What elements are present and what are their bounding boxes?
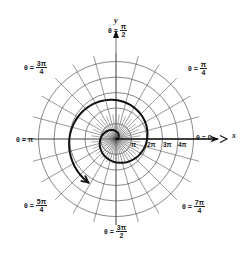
polar-grid: [0, 0, 248, 260]
angle-value: π: [28, 136, 33, 143]
radius-tick-label: 4π: [178, 141, 187, 148]
angle-label-theta-pi: θ =π: [16, 136, 33, 143]
grid-radial-line: [116, 117, 199, 139]
grid-radial-line: [33, 117, 116, 139]
radius-tick-label: 3π: [163, 141, 172, 148]
angle-fraction: 5π4: [36, 198, 47, 213]
grid-radial-line: [42, 139, 117, 182]
angle-label-prefix: θ =: [16, 136, 26, 143]
angle-fraction: 7π4: [194, 199, 205, 214]
grid-radial-line: [73, 65, 116, 140]
x-axis-end-arrow-icon: [220, 136, 227, 143]
fraction-denominator: 4: [202, 69, 206, 76]
fraction-denominator: 4: [198, 207, 202, 214]
grid-radial-line: [116, 56, 138, 139]
grid-radial-line: [116, 139, 138, 222]
angle-label-prefix: θ =: [196, 134, 206, 141]
grid-radial-line: [94, 56, 116, 139]
fraction-numerator: 3π: [36, 60, 47, 68]
fraction-numerator: π: [120, 23, 127, 31]
grid-radial-line: [73, 139, 116, 214]
angle-label-prefix: θ =: [108, 27, 118, 34]
grid-radial-line: [116, 139, 159, 214]
angle-label-theta-3pi-4: θ =3π4: [24, 60, 47, 75]
grid-radial-line: [116, 139, 177, 200]
grid-radial-line: [55, 139, 116, 200]
fraction-numerator: 3π: [116, 224, 127, 232]
x-axis-label: x: [232, 131, 236, 140]
angle-label-prefix: θ =: [24, 202, 34, 209]
fraction-numerator: π: [200, 61, 207, 69]
fraction-numerator: 7π: [194, 199, 205, 207]
radius-tick-label: 2π: [147, 141, 156, 148]
fraction-numerator: 5π: [36, 198, 47, 206]
angle-fraction: π4: [200, 61, 207, 76]
grid-radial-line: [94, 139, 116, 222]
angle-label-theta-3pi-2: θ =3π2: [104, 224, 127, 239]
angle-label-theta-pi-4: θ =π4: [188, 61, 207, 76]
radius-tick-label: π: [131, 141, 136, 148]
angle-label-prefix: θ =: [24, 64, 34, 71]
angle-label-theta-7pi-4: θ =7π4: [182, 199, 205, 214]
grid-radial-line: [33, 139, 116, 161]
angle-value: 0: [208, 134, 212, 141]
angle-label-prefix: θ =: [104, 228, 114, 235]
polar-spiral-figure: x y θ =0θ =π4θ =π2θ =3π4θ =πθ =5π4θ =3π2…: [0, 0, 248, 260]
angle-fraction: π2: [120, 23, 127, 38]
angle-label-theta-pi-2: θ =π2: [108, 23, 127, 38]
angle-fraction: 3π4: [36, 60, 47, 75]
fraction-denominator: 4: [40, 68, 44, 75]
angle-label-prefix: θ =: [188, 65, 198, 72]
fraction-denominator: 2: [122, 31, 126, 38]
angle-label-theta-5pi-4: θ =5π4: [24, 198, 47, 213]
fraction-denominator: 2: [120, 232, 124, 239]
angle-fraction: 3π2: [116, 224, 127, 239]
angle-label-prefix: θ =: [182, 203, 192, 210]
fraction-denominator: 4: [40, 206, 44, 213]
angle-label-theta-0: θ =0: [196, 134, 212, 141]
